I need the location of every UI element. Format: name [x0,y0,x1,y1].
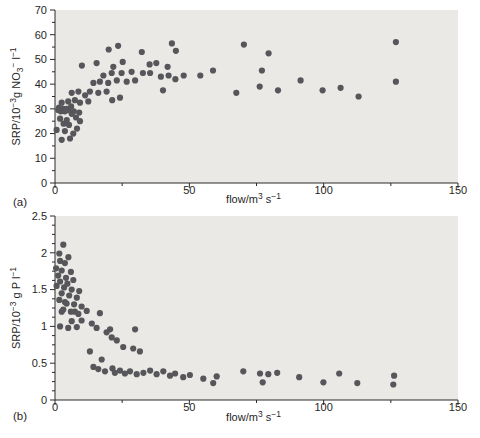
data-point [62,128,68,134]
data-point [260,379,266,385]
x-tick-label: 0 [52,184,58,196]
data-point [53,265,59,271]
plot-area [55,10,458,183]
data-point [74,126,80,132]
data-point [153,60,159,66]
data-point [210,67,216,73]
data-point [166,72,172,78]
data-point [59,137,65,143]
data-point [66,292,72,298]
data-point [134,371,140,377]
data-point [197,72,203,78]
data-point [65,325,71,331]
data-point [100,72,106,78]
data-point [75,311,81,317]
y-tick-label: 0 [41,394,47,406]
data-point [210,380,216,386]
data-point [77,118,83,124]
data-point [132,77,138,83]
x-axis-label: flow/m3 s−1 [226,409,281,423]
data-point [173,48,179,54]
data-point [57,116,63,122]
data-point [172,370,178,376]
data-point [71,301,77,307]
y-tick-label: 1.5 [32,283,47,295]
data-point [120,59,126,65]
x-tick-label: 150 [449,184,467,196]
data-point [94,325,100,331]
x-tick-label: 0 [52,401,58,413]
y-tick-label: 20 [35,127,47,139]
data-point [241,42,247,48]
data-point [107,326,113,332]
data-point [97,310,103,316]
chart-a: 050100150010203040506070flow/m3 s−1SRP/1… [8,4,467,205]
data-point [354,380,360,386]
data-point [102,368,108,374]
data-point [165,64,171,70]
y-tick-label: 50 [35,53,47,65]
data-point [64,281,70,287]
x-tick-label: 50 [183,184,195,196]
data-point [79,303,85,309]
data-point [393,39,399,45]
data-point [87,89,93,95]
data-point [60,242,66,248]
panel-label-b: (b) [13,410,27,422]
data-point [105,80,111,86]
data-point [56,297,62,303]
data-point [97,79,103,85]
data-point [114,337,120,343]
data-point [160,368,166,374]
data-point [59,100,65,106]
data-point [393,79,399,85]
data-point [187,372,193,378]
data-point [70,131,76,137]
data-point [127,368,133,374]
data-point [71,108,77,114]
data-point [75,89,81,95]
chart-b: 05010015000.511.522.5flow/m3 s−1SRP/10−3… [8,210,467,423]
data-point [69,90,75,96]
data-point [320,87,326,93]
y-tick-label: 30 [35,103,47,115]
data-point [95,366,101,372]
data-point [132,326,138,332]
data-point [114,77,120,83]
data-point [74,295,80,301]
data-point [66,122,72,128]
data-point [79,63,85,69]
data-point [275,87,281,93]
data-point [64,301,70,307]
data-point [336,370,342,376]
data-point [140,370,146,376]
data-point [84,308,90,314]
y-tick-label: 0 [41,177,47,189]
data-point [169,40,175,46]
data-point [59,267,65,273]
data-point [129,69,135,75]
y-tick-label: 2.5 [32,210,47,222]
data-point [94,60,100,66]
data-point [391,373,397,379]
data-point [54,127,60,133]
data-point [265,371,271,377]
x-tick-label: 150 [449,401,467,413]
data-point [257,84,263,90]
data-point [240,368,246,374]
data-point [68,269,74,275]
data-point [296,374,302,380]
data-point [74,324,80,330]
y-axis-label: SRP/10−3 g P l−1 [8,267,22,349]
data-point [95,90,101,96]
data-point [106,46,112,52]
data-point [356,93,362,99]
x-axis-label: flow/m3 s−1 [226,191,281,205]
y-tick-label: 60 [35,29,47,41]
data-point [60,306,66,312]
y-tick-label: 2 [41,247,47,259]
y-tick-label: 10 [35,152,47,164]
data-point [124,79,130,85]
data-point [87,348,93,354]
y-tick-label: 70 [35,4,47,16]
